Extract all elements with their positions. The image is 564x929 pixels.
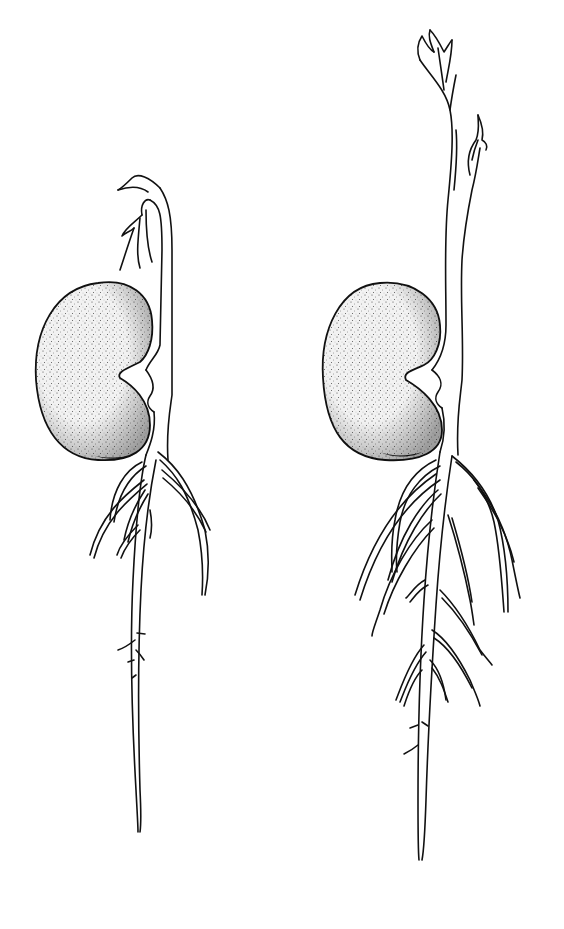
seedling-left [36,176,210,832]
seedling-right [323,30,520,860]
illustration-canvas: Two germinating bean seedlings (line dra… [0,0,564,929]
seed-right [323,283,442,461]
roots-right [355,452,520,860]
shoot-right [418,30,487,455]
bean-seedlings-drawing [0,0,564,929]
seed-left [36,282,153,460]
roots-left [90,452,210,832]
